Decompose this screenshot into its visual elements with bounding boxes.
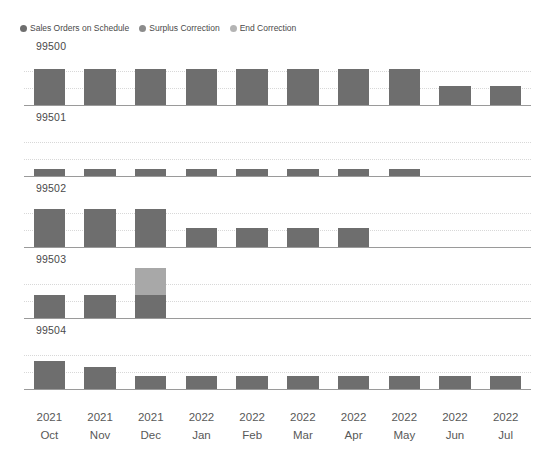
x-axis-tick-year: 2021	[24, 408, 75, 426]
bar-segment[interactable]	[186, 69, 217, 105]
bar-segment[interactable]	[236, 228, 267, 247]
bar-stack[interactable]	[439, 376, 470, 389]
bar-stack[interactable]	[186, 69, 217, 105]
bar-row	[24, 127, 531, 176]
bar-slot	[278, 56, 329, 105]
panel-label: 99502	[36, 182, 66, 194]
bar-slot	[75, 340, 126, 389]
bar-stack[interactable]	[338, 376, 369, 389]
legend-item[interactable]: End Correction	[230, 23, 297, 33]
bar-stack[interactable]	[287, 169, 318, 176]
bar-segment[interactable]	[84, 209, 115, 247]
bar-segment[interactable]	[84, 69, 115, 105]
bar-slot	[24, 269, 75, 318]
bar-stack[interactable]	[186, 376, 217, 389]
bar-stack[interactable]	[135, 268, 166, 318]
bar-segment[interactable]	[287, 376, 318, 389]
bar-stack[interactable]	[34, 69, 65, 105]
bar-segment[interactable]	[135, 295, 166, 318]
plot-area	[24, 340, 531, 390]
bar-stack[interactable]	[84, 367, 115, 389]
bar-stack[interactable]	[338, 69, 369, 105]
bar-segment[interactable]	[135, 209, 166, 247]
panel-group: 9950099501995029950399504	[0, 40, 539, 395]
bar-segment[interactable]	[338, 228, 369, 247]
bar-stack[interactable]	[186, 228, 217, 247]
bar-stack[interactable]	[439, 86, 470, 105]
bar-stack[interactable]	[490, 86, 521, 105]
bar-slot	[125, 198, 176, 247]
bar-stack[interactable]	[34, 169, 65, 176]
bar-stack[interactable]	[287, 69, 318, 105]
bar-segment[interactable]	[34, 361, 65, 389]
bar-segment[interactable]	[34, 295, 65, 318]
bar-stack[interactable]	[338, 228, 369, 247]
bar-stack[interactable]	[338, 169, 369, 176]
bar-slot	[328, 198, 379, 247]
bar-segment[interactable]	[84, 367, 115, 389]
legend-item[interactable]: Sales Orders on Schedule	[20, 23, 129, 33]
x-axis-tick-year: 2022	[379, 408, 430, 426]
bar-segment[interactable]	[135, 376, 166, 389]
bar-stack[interactable]	[490, 376, 521, 389]
bar-segment[interactable]	[236, 376, 267, 389]
bar-stack[interactable]	[236, 69, 267, 105]
bar-segment[interactable]	[490, 86, 521, 105]
bar-stack[interactable]	[236, 228, 267, 247]
bar-stack[interactable]	[236, 169, 267, 176]
legend-item[interactable]: Surplus Correction	[139, 23, 219, 33]
bar-segment[interactable]	[186, 228, 217, 247]
bar-segment[interactable]	[439, 376, 470, 389]
bar-stack[interactable]	[84, 69, 115, 105]
bar-segment[interactable]	[84, 169, 115, 176]
bar-stack[interactable]	[287, 376, 318, 389]
bar-stack[interactable]	[34, 361, 65, 389]
bar-stack[interactable]	[389, 169, 420, 176]
bar-slot	[379, 340, 430, 389]
bar-stack[interactable]	[135, 376, 166, 389]
bar-segment[interactable]	[389, 376, 420, 389]
bar-slot	[24, 340, 75, 389]
bar-stack[interactable]	[186, 169, 217, 176]
bar-segment[interactable]	[186, 169, 217, 176]
x-axis-tick: 2021Oct	[24, 408, 75, 444]
bar-stack[interactable]	[84, 295, 115, 318]
bar-segment[interactable]	[389, 169, 420, 176]
bar-segment[interactable]	[34, 169, 65, 176]
bar-stack[interactable]	[135, 169, 166, 176]
bar-stack[interactable]	[34, 209, 65, 247]
bar-segment[interactable]	[338, 376, 369, 389]
bar-stack[interactable]	[135, 69, 166, 105]
bar-segment[interactable]	[439, 86, 470, 105]
bar-stack[interactable]	[135, 209, 166, 247]
bar-stack[interactable]	[389, 69, 420, 105]
bar-stack[interactable]	[34, 295, 65, 318]
bar-segment[interactable]	[135, 169, 166, 176]
bar-stack[interactable]	[287, 228, 318, 247]
bar-segment[interactable]	[236, 69, 267, 105]
bar-segment[interactable]	[490, 376, 521, 389]
bar-segment[interactable]	[135, 69, 166, 105]
bar-slot	[227, 269, 278, 318]
bar-segment[interactable]	[287, 169, 318, 176]
bar-stack[interactable]	[84, 209, 115, 247]
bar-slot	[227, 340, 278, 389]
bar-segment[interactable]	[338, 169, 369, 176]
bar-row	[24, 269, 531, 318]
bar-segment[interactable]	[84, 295, 115, 318]
bar-slot	[430, 340, 481, 389]
bar-segment[interactable]	[186, 376, 217, 389]
panel-axis-line	[24, 247, 531, 248]
bar-segment[interactable]	[135, 268, 166, 295]
bar-slot	[176, 340, 227, 389]
bar-segment[interactable]	[338, 69, 369, 105]
bar-stack[interactable]	[389, 376, 420, 389]
bar-segment[interactable]	[287, 69, 318, 105]
bar-segment[interactable]	[287, 228, 318, 247]
bar-segment[interactable]	[34, 209, 65, 247]
bar-segment[interactable]	[34, 69, 65, 105]
bar-stack[interactable]	[236, 376, 267, 389]
bar-segment[interactable]	[389, 69, 420, 105]
bar-stack[interactable]	[84, 169, 115, 176]
bar-segment[interactable]	[236, 169, 267, 176]
